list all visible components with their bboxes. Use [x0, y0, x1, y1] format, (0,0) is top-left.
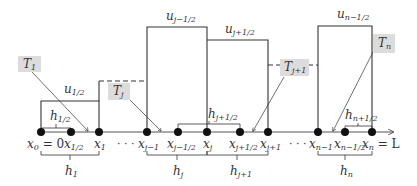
cell-width-braces: [41, 151, 372, 160]
node-label-xj+1/2: xj+1/2: [229, 137, 258, 152]
cell-value-uj+1/2: uj+1/2: [225, 22, 255, 37]
cell-value-un-1/2: un−1/2: [337, 7, 369, 22]
cell-width-h1: h1: [65, 164, 78, 179]
half-width-h1/2: h1/2: [50, 109, 71, 124]
half-width-hn+1/2: hn+1/2: [345, 108, 377, 123]
node-label-xn: xn = L: [362, 137, 400, 152]
cell-width-hj+1: hj+1: [230, 164, 252, 179]
half-width-hj+1/2: hj+1/2: [208, 107, 238, 122]
node-label-xj-1: xj−1: [138, 137, 159, 152]
diagram-canvas: T1 Tj Tj+1 Tn u1/2 uj−1/2 uj+1/2 un−1/2 …: [0, 0, 417, 186]
node-label-x1: x1: [94, 137, 106, 152]
ellipsis-right: · · ·: [289, 138, 306, 151]
node-label-x0: x0 = 0: [27, 137, 64, 152]
node-label-xn-1/2: xn−1/2: [334, 137, 366, 152]
cell-value-uj-1/2: uj−1/2: [166, 9, 196, 24]
cell-width-hn: hn: [340, 164, 353, 179]
node-label-xj-1/2: xj−1/2: [167, 137, 196, 152]
cell-width-hj: hj: [173, 164, 184, 179]
finite-volume-grid-diagram: T1 Tj Tj+1 Tn u1/2 uj−1/2 uj+1/2 un−1/2 …: [0, 0, 417, 186]
ellipsis-left: · · ·: [117, 138, 134, 151]
cell-j-step: [147, 27, 207, 132]
node-label-x1/2: x1/2: [64, 137, 84, 152]
node-label-xj+1: xj+1: [260, 137, 281, 152]
node-label-xn-1: xn−1: [309, 137, 333, 152]
node-label-xj: xj: [203, 137, 213, 152]
cell-value-u1/2: u1/2: [64, 82, 85, 97]
